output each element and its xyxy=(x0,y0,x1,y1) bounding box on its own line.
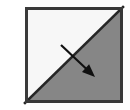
figure-container: Diagonal split square with direction arr… xyxy=(0,0,130,110)
split-square xyxy=(25,7,123,103)
split-square-diagram xyxy=(0,0,130,110)
